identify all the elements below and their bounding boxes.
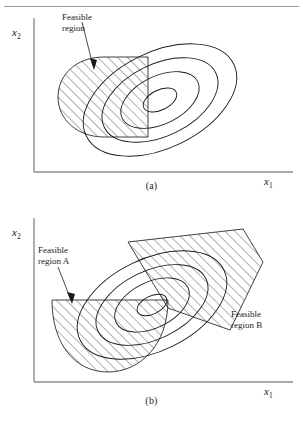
figure-container: x2 x1 Feasible region (a) — [0, 0, 303, 425]
panel-b-y-axis-label: x2 — [12, 226, 21, 241]
panel-b-caption: (b) — [0, 395, 303, 406]
panel-b-annotation-a-leader — [58, 267, 75, 304]
panel-a-y-axis-label-sub: 2 — [17, 32, 21, 41]
panel-b-y-axis-label-sub: 2 — [17, 232, 21, 241]
panel-b-feasible-region-a-shape — [52, 300, 168, 372]
panel-a-caption: (a) — [0, 180, 303, 191]
feasible-region-label: Feasible region — [62, 12, 92, 33]
panel-b: x2 x1 Feasible region A Feasible region … — [0, 205, 303, 425]
panel-a: x2 x1 Feasible region (a) — [0, 0, 303, 212]
feasible-region-a-polygon — [52, 300, 168, 372]
panel-a-y-axis-label: x2 — [12, 26, 21, 41]
feasible-region-b-label: Feasible region B — [231, 309, 262, 330]
feasible-region-a-label: Feasible region A — [38, 245, 69, 266]
